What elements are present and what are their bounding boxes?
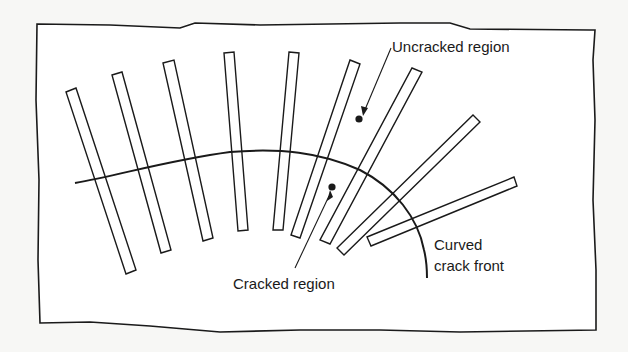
crack-front-label-line2: crack front — [434, 257, 505, 274]
cracked-region-label: Cracked region — [233, 275, 335, 292]
uncracked-point-marker — [355, 115, 362, 122]
crack-front-diagram: Uncracked region Cracked region Curved c… — [0, 0, 628, 352]
crack-front-label-line1: Curved — [434, 236, 482, 253]
cracked-point-marker — [328, 183, 335, 190]
uncracked-region-label: Uncracked region — [392, 38, 510, 55]
